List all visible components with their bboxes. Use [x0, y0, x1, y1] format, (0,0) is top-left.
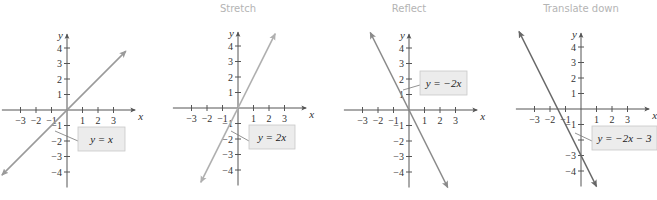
x-tick-label: 3 — [453, 115, 458, 126]
y-tick-label: −3 — [222, 149, 233, 160]
graph-panel-3: Reflectxy−3−2−11234321−1−2−3−4y = −2x — [344, 3, 485, 188]
x-tick-label: 1 — [422, 115, 427, 126]
graph-panel-1: xy−3−2−11234321−1−2−3−4y = x — [2, 29, 143, 188]
panel-title: Reflect — [392, 3, 427, 14]
x-tick-label: 2 — [610, 114, 615, 125]
graphs-canvas: xy−3−2−11234321−1−2−3−4y = xStretchxy−3−… — [0, 0, 657, 200]
x-tick-label: −3 — [357, 115, 368, 126]
y-tick-label: 4 — [399, 43, 404, 54]
x-tick-label: 2 — [267, 113, 272, 124]
y-tick-label: −4 — [565, 166, 576, 177]
y-tick-label: 3 — [571, 57, 576, 68]
y-tick-label: 3 — [228, 56, 233, 67]
y-tick-label: −1 — [51, 120, 62, 131]
x-tick-label: −2 — [31, 115, 42, 126]
panel-title: Stretch — [220, 3, 256, 14]
leader-line — [403, 85, 420, 90]
y-tick-label: −3 — [565, 150, 576, 161]
y-tick-label: 4 — [228, 41, 233, 52]
x-tick-label: −2 — [373, 115, 384, 126]
x-axis-label: x — [651, 109, 657, 121]
equation-label: y = x — [89, 133, 113, 145]
y-tick-label: −3 — [393, 151, 404, 162]
x-tick-label: 2 — [96, 115, 101, 126]
x-tick-label: 1 — [594, 114, 599, 125]
y-tick-label: 4 — [57, 43, 62, 54]
x-tick-label: −3 — [529, 114, 540, 125]
x-tick-label: 1 — [80, 115, 85, 126]
equation-label: y = −2x — [425, 77, 462, 89]
y-tick-label: −2 — [51, 136, 62, 147]
graph-panel-4: Translate downxy−3−2−11234321−1−3−4y = −… — [516, 3, 657, 187]
x-tick-label: 2 — [438, 115, 443, 126]
equation-label: y = 2x — [257, 131, 286, 143]
y-tick-label: −3 — [51, 151, 62, 162]
y-tick-label: −2 — [393, 136, 404, 147]
y-tick-label: 1 — [571, 88, 576, 99]
equation-label: y = −2x − 3 — [596, 132, 652, 144]
y-tick-label: 2 — [57, 74, 62, 85]
y-tick-label: −4 — [51, 167, 62, 178]
function-line — [2, 51, 126, 175]
x-tick-label: 1 — [251, 113, 256, 124]
y-tick-label: 4 — [571, 42, 576, 53]
graph-panel-2: Stretchxy−3−2−11234321−1−2−3−4y = 2x — [173, 3, 314, 186]
y-tick-label: 2 — [399, 74, 404, 85]
y-tick-label: 3 — [399, 58, 404, 69]
y-tick-label: 2 — [228, 72, 233, 83]
x-tick-label: 3 — [282, 113, 287, 124]
x-axis-label: x — [137, 110, 143, 122]
x-tick-label: 3 — [625, 114, 630, 125]
y-axis-label: y — [228, 27, 234, 39]
x-tick-label: −3 — [186, 113, 197, 124]
y-tick-label: 1 — [228, 87, 233, 98]
y-tick-label: −4 — [393, 167, 404, 178]
x-tick-label: 3 — [111, 115, 116, 126]
y-axis-label: y — [571, 28, 577, 40]
y-axis-label: y — [57, 29, 63, 41]
x-axis-label: x — [308, 108, 314, 120]
y-tick-label: 1 — [57, 89, 62, 100]
y-tick-label: 2 — [571, 73, 576, 84]
x-tick-label: −3 — [15, 115, 26, 126]
y-axis-label: y — [399, 29, 405, 41]
y-tick-label: −1 — [393, 120, 404, 131]
x-axis-label: x — [479, 110, 485, 122]
x-tick-label: −2 — [545, 114, 556, 125]
y-tick-label: −4 — [222, 165, 233, 176]
x-tick-label: −2 — [202, 113, 213, 124]
y-tick-label: 3 — [57, 58, 62, 69]
panel-title: Translate down — [542, 3, 619, 14]
